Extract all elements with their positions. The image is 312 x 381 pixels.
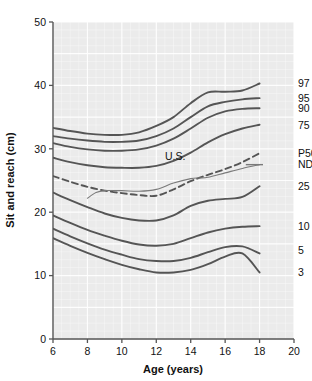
curve-end-label-90: 90 xyxy=(298,102,310,114)
x-tick-label: 14 xyxy=(185,345,197,357)
x-axis-title: Age (years) xyxy=(143,363,203,375)
y-tick-label: 40 xyxy=(34,79,46,91)
y-tick-label: 20 xyxy=(34,206,46,218)
x-axis-ticks: 68101214161820 xyxy=(50,339,300,357)
x-tick-label: 10 xyxy=(116,345,128,357)
gridlines xyxy=(53,22,294,339)
y-tick-label: 50 xyxy=(34,16,46,28)
y-tick-label: 30 xyxy=(34,143,46,155)
x-tick-label: 8 xyxy=(85,345,91,357)
y-axis-ticks: 01020304050 xyxy=(34,16,53,345)
curve-end-label-ndl: NDL xyxy=(298,158,312,170)
curve-end-label-25: 25 xyxy=(298,180,310,192)
in-plot-annotations: U.S. xyxy=(165,150,185,162)
sit-and-reach-percentile-chart: 01020304050 68101214161820 97959075P50ND… xyxy=(0,0,312,381)
curve-end-label-3: 3 xyxy=(298,266,304,278)
y-tick-label: 10 xyxy=(34,269,46,281)
curve-end-label-97: 97 xyxy=(298,77,310,89)
annotation-us: U.S. xyxy=(165,150,185,162)
x-tick-label: 6 xyxy=(50,345,56,357)
x-tick-label: 20 xyxy=(288,345,300,357)
x-tick-label: 18 xyxy=(254,345,266,357)
x-tick-label: 16 xyxy=(219,345,231,357)
y-axis-title: Sit and reach (cm) xyxy=(4,132,16,228)
curve-end-label-10: 10 xyxy=(298,220,310,232)
curve-end-label-5: 5 xyxy=(298,244,304,256)
x-tick-label: 12 xyxy=(150,345,162,357)
curve-end-label-p50: P50 xyxy=(298,147,312,159)
plot-background-group xyxy=(53,22,294,339)
y-tick-label: 0 xyxy=(40,333,46,345)
curve-end-label-75: 75 xyxy=(298,119,310,131)
chart-container: 01020304050 68101214161820 97959075P50ND… xyxy=(0,0,312,381)
curve-end-labels: 97959075P50NDL251053 xyxy=(298,77,312,278)
